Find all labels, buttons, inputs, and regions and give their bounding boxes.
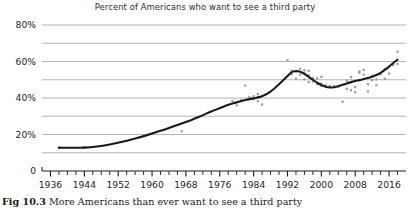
x-axis-tick-label: 1960 — [140, 179, 164, 190]
data-point — [384, 78, 386, 80]
data-point — [261, 103, 263, 105]
data-point — [253, 95, 255, 97]
x-axis-tick-label: 1952 — [106, 179, 129, 190]
data-point — [295, 78, 297, 80]
x-axis-tick-label: 1984 — [242, 179, 266, 190]
data-point — [316, 77, 318, 79]
data-point — [308, 70, 310, 72]
x-axis-tick-label: 1992 — [276, 179, 299, 190]
data-point — [396, 51, 398, 53]
data-point — [299, 68, 301, 70]
x-axis-tick-label: 1944 — [73, 179, 97, 190]
data-point — [308, 81, 310, 83]
third-party-support-chart: 020%40%60%80% 19361944195219601968197619… — [0, 0, 410, 208]
figure-root: Percent of Americans who want to see a t… — [0, 0, 410, 208]
data-point — [354, 91, 356, 93]
x-axis-labels-group: 1936194419521960196819761984199220002008… — [39, 179, 401, 190]
x-axis-tick-label: 1936 — [39, 179, 63, 190]
figure-caption-text: More Americans than ever want to see a t… — [46, 196, 302, 207]
data-point — [371, 79, 373, 81]
x-axis-tick-label: 1976 — [208, 179, 232, 190]
x-axis-tick-label: 2000 — [310, 179, 334, 190]
data-point — [303, 78, 305, 80]
data-point — [341, 101, 343, 103]
data-point — [303, 69, 305, 71]
data-point — [367, 90, 369, 92]
x-axis-tick-label: 2008 — [344, 179, 368, 190]
data-point — [375, 84, 377, 86]
data-point — [388, 72, 390, 74]
figure-caption-label: Fig 10.3 — [2, 196, 46, 207]
data-point — [299, 74, 301, 76]
y-axis-tick-label: 60% — [16, 56, 37, 67]
gridlines-group — [42, 25, 406, 153]
data-point — [346, 80, 348, 82]
data-point — [363, 74, 365, 76]
data-point — [244, 84, 246, 86]
y-axis-tick-label: 0 — [30, 165, 36, 176]
data-point — [231, 100, 233, 102]
data-point — [367, 83, 369, 85]
data-point — [236, 104, 238, 106]
y-axis-tick-label: 40% — [16, 92, 37, 103]
data-point — [320, 76, 322, 78]
data-point — [358, 70, 360, 72]
data-point — [181, 130, 183, 132]
figure-caption: Fig 10.3 More Americans than ever want t… — [2, 196, 408, 208]
x-axis-tick-label: 1968 — [174, 179, 198, 190]
x-axis-group — [42, 167, 406, 177]
data-point — [363, 69, 365, 71]
data-point — [354, 86, 356, 88]
data-point — [350, 76, 352, 78]
data-point — [346, 88, 348, 90]
data-point — [350, 89, 352, 91]
data-point — [396, 63, 398, 65]
data-point — [375, 78, 377, 80]
data-point — [257, 100, 259, 102]
y-axis-labels-group: 020%40%60%80% — [16, 19, 37, 176]
y-axis-tick-label: 20% — [16, 129, 37, 140]
y-axis-tick-label: 80% — [16, 19, 37, 30]
data-point — [257, 93, 259, 95]
data-point — [286, 59, 288, 61]
x-axis-tick-label: 2016 — [377, 179, 401, 190]
